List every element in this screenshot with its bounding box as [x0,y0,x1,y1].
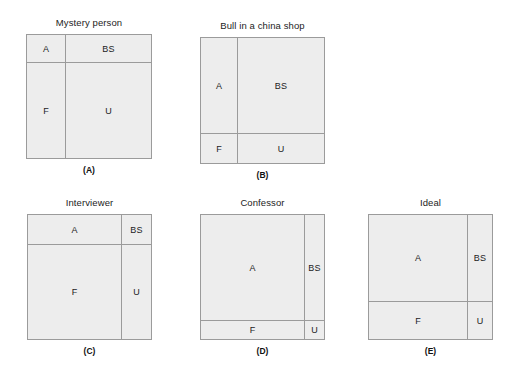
panel-c-cell-u: U [122,245,151,339]
panel-interviewer: Interviewer A BS F U (C) [27,197,152,360]
panel-ideal: Ideal A BS F U (E) [368,197,493,360]
panel-e-caption: (E) [368,346,493,356]
panel-a-cell-f-label: F [43,106,49,116]
panel-mystery-person: Mystery person A BS F U (A) [26,17,152,179]
panel-a-cell-bs-label: BS [102,44,114,54]
panel-d-cell-u: U [305,321,324,339]
panel-b-grid: A BS F U [200,37,325,164]
panel-c-cell-u-label: U [133,287,140,297]
panel-c-title: Interviewer [27,197,152,209]
panel-a-cell-a-label: A [43,44,49,54]
panel-e-cell-f: F [369,302,468,339]
panel-c-cell-a: A [28,215,122,245]
panel-d-cell-f-label: F [250,325,256,335]
panel-d-cell-bs: BS [305,215,324,321]
panel-d-cell-a-label: A [249,263,255,273]
panel-c-caption: (C) [27,346,152,356]
panel-b-title: Bull in a china shop [200,20,325,32]
panel-c-cell-bs: BS [122,215,151,245]
panel-e-cell-f-label: F [415,316,421,326]
panel-a-cell-f: F [27,63,66,158]
panel-b-cell-f: F [201,134,238,163]
panel-d-caption: (D) [200,346,325,356]
panel-e-grid: A BS F U [368,214,493,340]
panel-a-grid: A BS F U [26,34,152,159]
panel-bull-in-a-china-shop: Bull in a china shop A BS F U (B) [200,20,325,185]
panel-d-grid: A BS F U [200,214,325,340]
panel-d-cell-u-label: U [311,325,318,335]
panel-confessor: Confessor A BS F U (D) [200,197,325,360]
figure-canvas: Mystery person A BS F U (A) Bull in a ch… [0,0,513,369]
panel-a-title: Mystery person [26,17,152,29]
panel-d-title: Confessor [200,197,325,209]
panel-a-cell-a: A [27,35,66,63]
panel-b-cell-f-label: F [216,144,222,154]
panel-d-cell-bs-label: BS [308,263,320,273]
panel-c-cell-f: F [28,245,122,339]
panel-e-cell-u-label: U [477,316,484,326]
panel-b-cell-bs-label: BS [275,81,287,91]
panel-e-title: Ideal [368,197,493,209]
panel-e-cell-u: U [468,302,492,339]
panel-e-cell-bs-label: BS [474,253,486,263]
panel-b-cell-a: A [201,38,238,134]
panel-b-caption: (B) [200,170,325,180]
panel-a-cell-bs: BS [66,35,151,63]
panel-d-cell-f: F [201,321,305,339]
panel-b-cell-bs: BS [238,38,324,134]
panel-c-cell-bs-label: BS [130,225,142,235]
panel-b-cell-u: U [238,134,324,163]
panel-b-cell-u-label: U [278,144,285,154]
panel-e-cell-a-label: A [415,253,421,263]
panel-c-cell-f-label: F [72,287,78,297]
panel-a-cell-u: U [66,63,151,158]
panel-d-cell-a: A [201,215,305,321]
panel-a-cell-u-label: U [105,106,112,116]
panel-c-cell-a-label: A [71,225,77,235]
panel-e-cell-a: A [369,215,468,302]
panel-c-grid: A BS F U [27,214,152,340]
panel-b-cell-a-label: A [216,81,222,91]
panel-a-caption: (A) [26,165,152,175]
panel-e-cell-bs: BS [468,215,492,302]
